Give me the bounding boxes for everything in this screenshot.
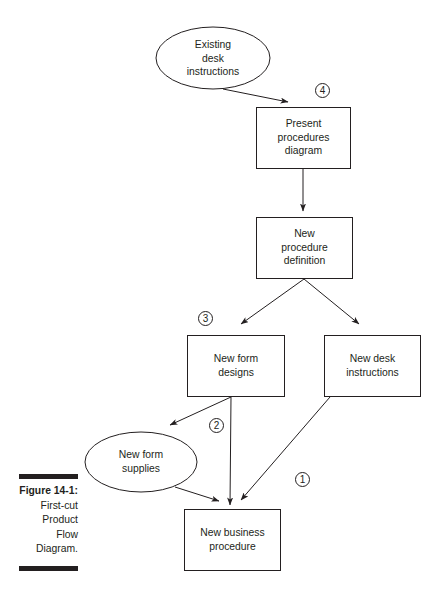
node-label-new-form-designs: New form designs <box>192 352 280 379</box>
step-marker-4: 4 <box>315 83 330 98</box>
node-label-new-business-procedure: New business procedure <box>189 526 276 553</box>
label-line: supplies <box>96 462 186 476</box>
node-label-existing-desk-instructions: Existing desk instructions <box>168 38 258 79</box>
step-marker-1: 1 <box>295 472 310 487</box>
label-line: New form <box>96 448 186 462</box>
label-line: instructions <box>168 65 258 79</box>
edge-supplies-to-business <box>175 487 219 501</box>
label-line: procedures <box>261 131 347 145</box>
figure-label: Figure 14-1: <box>17 483 78 498</box>
label-line: New desk <box>329 352 416 366</box>
label-line: instructions <box>329 366 416 380</box>
step-marker-2: 2 <box>209 418 224 433</box>
node-label-new-desk-instructions: New desk instructions <box>329 352 416 379</box>
label-line: procedure <box>261 241 348 255</box>
edge-existing-to-present <box>223 89 288 102</box>
caption-line: First-cut <box>17 498 78 513</box>
edge-desk-instructions-to-business <box>241 397 330 500</box>
label-line: desk <box>168 52 258 66</box>
edge-definition-to-form-designs <box>241 279 304 324</box>
label-line: New form <box>192 352 280 366</box>
edge-form-designs-to-business <box>230 397 231 505</box>
caption-line: Product <box>17 512 78 527</box>
label-line: New business <box>189 526 276 540</box>
label-line: New <box>261 227 348 241</box>
caption-line: Diagram. <box>17 541 78 556</box>
label-line: Present <box>261 117 347 131</box>
label-line: diagram <box>261 144 347 158</box>
node-label-new-procedure-definition: New procedure definition <box>261 227 348 268</box>
edge-definition-to-desk-instructions <box>304 279 359 324</box>
caption-line: Flow <box>17 527 78 542</box>
caption-rule-top <box>19 474 78 479</box>
label-line: definition <box>261 254 348 268</box>
node-label-present-procedures-diagram: Present procedures diagram <box>261 117 347 158</box>
label-line: designs <box>192 366 280 380</box>
label-line: procedure <box>189 540 276 554</box>
caption-rule-bottom <box>19 566 78 571</box>
step-marker-3: 3 <box>198 311 213 326</box>
node-label-new-form-supplies: New form supplies <box>96 448 186 475</box>
figure-caption: Figure 14-1: First-cut Product Flow Diag… <box>17 483 78 556</box>
label-line: Existing <box>168 38 258 52</box>
